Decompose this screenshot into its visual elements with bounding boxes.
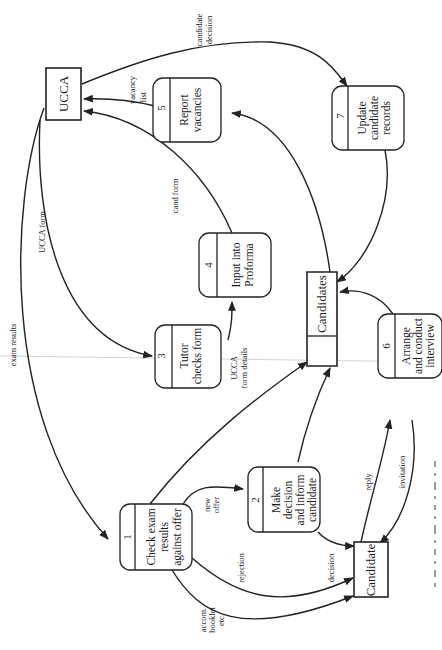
process-7-label-line-2: candidate <box>368 96 380 140</box>
label-new-offer-2: offer <box>211 497 221 514</box>
process-2-label-line-3: and inform <box>294 475 306 526</box>
process-2-make-decision[interactable]: 2 Make decision and inform candidate <box>248 467 320 532</box>
process-4-label-line-1: Input into <box>230 242 243 287</box>
flow-exam-results <box>21 108 108 539</box>
entity-ucca-label: UCCA <box>56 75 71 112</box>
process-2-label-line-4: candidate <box>306 478 318 522</box>
process-1-check-exam-results[interactable]: 1 Check exam results against offer <box>120 504 192 570</box>
label-accom-3: etc. <box>216 614 226 626</box>
process-2-label-line-2: decision <box>282 481 294 520</box>
process-5-label-line-1: Report <box>178 94 191 126</box>
data-flow-diagram: UCCA Candidate Candidates 1 Check exam r… <box>0 0 442 650</box>
label-cand-form: cand form <box>170 178 180 213</box>
process-3-tutor-checks-form[interactable]: 3 Tutor checks form <box>155 325 221 388</box>
process-2-label-line-1: Make <box>270 487 282 513</box>
flow-2-to-candidates <box>298 368 330 462</box>
process-4-label-line-2: Proforma <box>243 243 255 286</box>
process-7-update-candidate-records[interactable]: 7 Update candidate records <box>332 86 404 150</box>
process-3-label-line-2: checks form <box>191 328 203 385</box>
process-2-number: 2 <box>249 497 261 503</box>
entity-candidate-label: Candidate <box>363 543 378 596</box>
flow-ucca-form <box>39 120 152 356</box>
flow-ucca-form-details <box>228 302 232 340</box>
process-5-label-line-2: vacancies <box>191 87 203 132</box>
process-4-number: 4 <box>202 262 214 268</box>
process-3-number: 3 <box>155 353 167 359</box>
process-6-label-line-2: and conduct <box>412 317 424 374</box>
process-1-label-line-3: against offer <box>171 508 184 566</box>
process-1-number: 1 <box>121 534 133 540</box>
label-ucca-form: UCCA form <box>37 211 47 253</box>
flow-decision <box>318 532 354 546</box>
process-3-label-line-1: Tutor <box>178 343 190 368</box>
process-7-number: 7 <box>334 113 346 119</box>
process-5-report-vacancies[interactable]: 5 Report vacancies <box>153 78 221 142</box>
label-decision: decision <box>326 553 336 582</box>
datastore-candidates-label: Candidates <box>314 275 329 333</box>
clipped-caption <box>430 455 440 650</box>
process-1-label-line-1: Check exam <box>145 508 157 565</box>
label-reply: reply <box>363 473 373 491</box>
label-invitation: invitation <box>397 455 407 488</box>
label-rejection: rejection <box>236 552 246 582</box>
datastore-candidates[interactable]: Candidates <box>307 272 337 366</box>
process-6-number: 6 <box>380 343 392 349</box>
label-ucca-form-details-2: form details <box>239 348 249 389</box>
entity-ucca[interactable]: UCCA <box>46 68 81 120</box>
process-5-number: 5 <box>155 105 167 111</box>
label-candidate-decision-1: candidate <box>194 13 204 46</box>
entity-candidate[interactable]: Candidate <box>354 542 388 597</box>
label-candidate-decision-2: decision <box>204 15 214 44</box>
label-vacancy-1: vacancy <box>127 75 137 104</box>
process-4-input-into-proforma[interactable]: 4 Input into Proforma <box>199 233 271 297</box>
label-vacancy-2: list <box>138 91 148 102</box>
label-ucca-form-details-1: UCCA <box>229 355 239 379</box>
process-6-arrange-interview[interactable]: 6 Arrange and conduct interview <box>378 314 442 378</box>
process-7-label-line-3: records <box>380 101 392 135</box>
flow-6-to-candidates <box>340 291 393 314</box>
flow-7-to-candidates <box>337 150 387 282</box>
process-1-label-line-2: results <box>158 521 170 552</box>
process-6-label-line-3: interview <box>424 324 436 368</box>
label-exam-results: exam results <box>8 324 18 367</box>
